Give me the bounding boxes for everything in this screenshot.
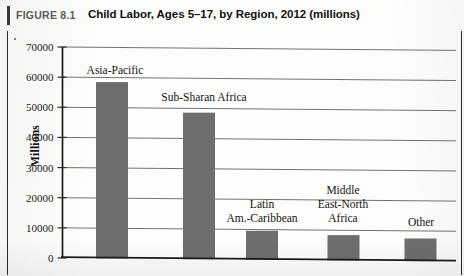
y-axis-tick-label: 10000: [26, 222, 54, 234]
bar: [328, 235, 360, 260]
y-axis-title: Millions: [29, 106, 41, 186]
y-axis-tick-label: 60000: [26, 71, 54, 83]
bar-chart-svg: 010000200003000040000500006000070000 Asi…: [0, 0, 464, 276]
category-label: Asia-Pacific: [87, 64, 144, 76]
y-axis-tick-label: 0: [48, 252, 54, 264]
bar: [405, 238, 437, 261]
bar: [96, 82, 128, 258]
category-label: MiddleEast-NorthAfrica: [318, 184, 369, 224]
gridline: [63, 77, 457, 80]
category-labels-group: Asia-PacificSub-Sharan AfricaLatinAm.-Ca…: [87, 64, 435, 228]
gridline: [63, 47, 457, 50]
bar: [246, 231, 278, 260]
category-label: Sub-Sharan Africa: [161, 91, 246, 103]
bar: [183, 113, 215, 259]
y-axis-tick-label: 70000: [26, 41, 54, 53]
y-axis-tick-label: 20000: [26, 192, 54, 204]
category-label: LatinAm.-Caribbean: [226, 198, 297, 224]
scan-artifact-speck: [14, 38, 16, 40]
category-label: Other: [408, 216, 434, 228]
bar-chart-plot: 010000200003000040000500006000070000 Asi…: [0, 0, 464, 276]
